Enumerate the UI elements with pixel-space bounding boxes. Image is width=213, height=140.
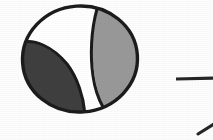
beachball-diagram	[0, 0, 213, 140]
horizontal-rule-segment	[176, 78, 213, 79]
figure-canvas	[0, 0, 213, 140]
